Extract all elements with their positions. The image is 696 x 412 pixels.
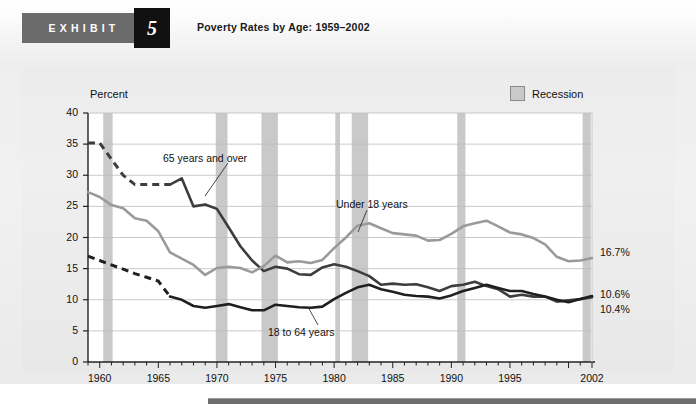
y-tick-label: 25 (54, 199, 78, 211)
exhibit-page: EXHIBIT 5 Poverty Rates by Age: 1959–200… (0, 0, 696, 412)
18-to-64-series-label: 18 to 64 years (268, 326, 335, 338)
poverty-rates-chart: Percent Recession 0510152025303540 19601… (0, 0, 696, 412)
y-tick-label: 5 (54, 324, 78, 336)
over-65-series-label: 65 years and over (163, 152, 247, 164)
y-tick-label: 30 (54, 168, 78, 180)
y-tick-label: 35 (54, 137, 78, 149)
x-tick-label: 1960 (80, 372, 120, 384)
x-tick-label: 1990 (431, 372, 471, 384)
x-tick-label: 1970 (197, 372, 237, 384)
series-line-dashed (88, 256, 170, 296)
series-line (170, 178, 592, 301)
under-18-end-value: 16.7% (600, 246, 630, 258)
x-tick-label: 1965 (138, 372, 178, 384)
x-tick-label: 1975 (256, 372, 296, 384)
y-tick-label: 20 (54, 231, 78, 243)
series-line-dashed (88, 143, 170, 185)
x-tick-label: 1985 (373, 372, 413, 384)
y-tick-label: 40 (54, 106, 78, 118)
over-65-end-value: 10.6% (600, 288, 630, 300)
x-tick-label: 1995 (490, 372, 530, 384)
18-to-64-end-value: 10.4% (600, 303, 630, 315)
under-18-series-label: Under 18 years (336, 198, 408, 210)
y-tick-label: 10 (54, 293, 78, 305)
y-tick-label: 0 (54, 355, 78, 367)
series-line (170, 285, 592, 311)
x-tick-label: 2002 (572, 372, 612, 384)
x-tick-label: 1980 (314, 372, 354, 384)
label-leader-lines (205, 163, 367, 325)
y-tick-label: 15 (54, 262, 78, 274)
